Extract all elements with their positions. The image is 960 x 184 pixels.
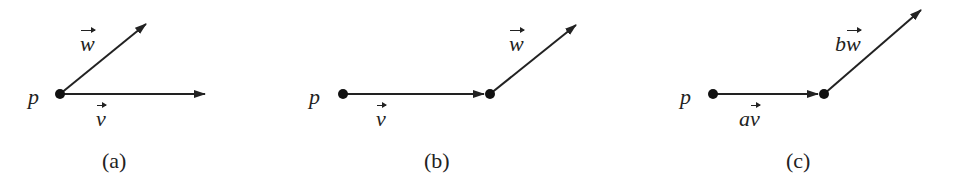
vector-label-v: v [376, 108, 386, 130]
point-p-plus-av [819, 89, 829, 99]
point-p-plus-v [485, 89, 495, 99]
panel-c-vectors [708, 10, 921, 99]
vector-w-arrow [60, 24, 146, 94]
panel-caption-a: (a) [102, 150, 126, 172]
vector-label-w: w [509, 33, 524, 55]
vector-addition-figure: p w v (a) p v w (b) p av bw (c) [0, 0, 960, 184]
panel-caption-b: (b) [424, 150, 450, 172]
point-label-p: p [309, 86, 320, 108]
panel-caption-c: (c) [786, 150, 810, 172]
point-label-p: p [28, 86, 39, 108]
vector-label-av: av [739, 108, 760, 130]
point-label-p: p [680, 86, 691, 108]
vector-w-arrow [490, 25, 576, 94]
panel-b-vectors [338, 25, 576, 99]
point-p [55, 89, 65, 99]
vector-label-bw: bw [835, 33, 861, 55]
vector-diagram [0, 0, 960, 184]
panel-a-vectors [55, 24, 205, 99]
point-p [708, 89, 718, 99]
point-p [338, 89, 348, 99]
vector-label-v: v [96, 108, 106, 130]
vector-label-w: w [80, 33, 95, 55]
